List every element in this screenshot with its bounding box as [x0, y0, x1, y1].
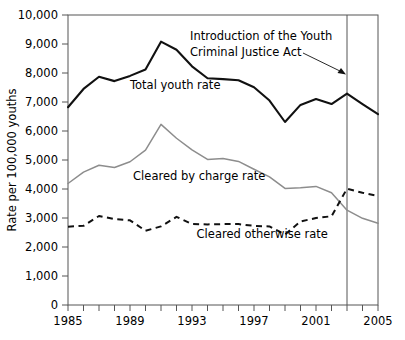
x-tick-label-1989: 1989	[115, 314, 144, 328]
y-tick-label-7000: 7,000	[25, 95, 58, 109]
x-tick-label-1985: 1985	[53, 314, 82, 328]
y-tick-label-1000: 1,000	[25, 269, 58, 283]
y-tick-label-9000: 9,000	[25, 37, 58, 51]
y-tick-label-6000: 6,000	[25, 124, 58, 138]
x-tick-label-2005: 2005	[363, 314, 392, 328]
chart-canvas: 0 1,000 2,000 3,000 4,000 5,000 6,000 7,…	[0, 0, 405, 340]
y-tick-label-8000: 8,000	[25, 66, 58, 80]
y-axis-tick-labels: 0 1,000 2,000 3,000 4,000 5,000 6,000 7,…	[18, 8, 58, 312]
x-axis-ticks	[68, 305, 378, 311]
y-axis-ticks	[62, 15, 68, 305]
y-tick-label-10000: 10,000	[18, 8, 58, 22]
youth-crime-rate-chart: 0 1,000 2,000 3,000 4,000 5,000 6,000 7,…	[0, 0, 405, 340]
series-label-cleared-by-charge: Cleared by charge rate	[133, 169, 265, 183]
series-label-cleared-otherwise: Cleared otherwise rate	[197, 227, 328, 241]
x-tick-label-2001: 2001	[301, 314, 330, 328]
x-axis-tick-labels: 1985 1989 1993 1997 2001 2005	[53, 314, 392, 328]
x-tick-label-1993: 1993	[177, 314, 206, 328]
annotation-line-2: Criminal Justice Act	[190, 45, 302, 59]
y-tick-label-0: 0	[51, 298, 58, 312]
y-tick-label-4000: 4,000	[25, 182, 58, 196]
series-label-total-youth: Total youth rate	[129, 78, 220, 92]
x-tick-label-1997: 1997	[239, 314, 268, 328]
y-tick-label-3000: 3,000	[25, 211, 58, 225]
y-tick-label-2000: 2,000	[25, 240, 58, 254]
annotation-line-1: Introduction of the Youth	[190, 29, 332, 43]
y-axis-title: Rate per 100,000 youths	[5, 89, 19, 232]
y-tick-label-5000: 5,000	[25, 153, 58, 167]
annotation-arrow	[303, 53, 346, 75]
